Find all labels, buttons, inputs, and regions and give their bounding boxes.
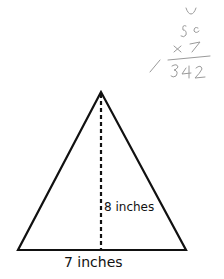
height-label: 8 inches bbox=[104, 200, 154, 214]
base-label: 7 inches bbox=[64, 254, 123, 270]
handwritten-scratch-work bbox=[150, 8, 210, 78]
triangle-diagram bbox=[0, 0, 224, 279]
